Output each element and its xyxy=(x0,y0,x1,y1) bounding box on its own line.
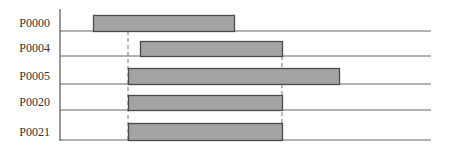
bar-p0004 xyxy=(141,42,283,57)
gantt-diagram: P0000P0004P0005P0020P0021 xyxy=(0,0,454,148)
row-label: P0020 xyxy=(19,95,50,109)
bar-p0020 xyxy=(129,96,283,111)
row-label: P0000 xyxy=(19,16,50,30)
bar-p0021 xyxy=(129,124,283,141)
row-label: P0005 xyxy=(19,69,50,83)
row-label: P0021 xyxy=(19,125,50,139)
row-labels: P0000P0004P0005P0020P0021 xyxy=(19,16,50,139)
bar-p0000 xyxy=(94,16,235,32)
bar-p0005 xyxy=(129,69,340,85)
row-label: P0004 xyxy=(19,41,50,55)
row-bars xyxy=(94,16,340,141)
